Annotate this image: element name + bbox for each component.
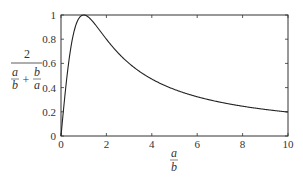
chart: 024681000.20.40.60.81 2 a b + b a a b bbox=[0, 0, 303, 178]
axis-labels: 2 a b + b a a b bbox=[11, 47, 178, 174]
plot-area: 024681000.20.40.60.81 bbox=[42, 9, 294, 150]
ylabel-plus: + bbox=[23, 73, 30, 87]
ylabel-b2: b bbox=[34, 65, 40, 79]
ylabel-numerator: 2 bbox=[24, 47, 30, 61]
x-tick-label: 6 bbox=[194, 138, 200, 150]
ylabel-a2: a bbox=[34, 78, 40, 92]
y-tick-label: 0 bbox=[51, 130, 57, 142]
x-tick-label: 2 bbox=[104, 138, 110, 150]
y-tick-label: 0.2 bbox=[42, 106, 56, 118]
x-tick-label: 0 bbox=[58, 138, 64, 150]
ylabel-a1: a bbox=[12, 65, 18, 79]
x-tick-label: 4 bbox=[149, 138, 155, 150]
x-tick-label: 8 bbox=[240, 138, 246, 150]
y-tick-label: 0.8 bbox=[42, 33, 56, 45]
y-tick-label: 0.4 bbox=[42, 82, 56, 94]
y-tick-label: 1 bbox=[51, 9, 57, 21]
data-line bbox=[61, 15, 288, 136]
x-tick-label: 10 bbox=[283, 138, 295, 150]
y-tick-label: 0.6 bbox=[42, 57, 56, 69]
axes-box bbox=[61, 15, 288, 136]
xlabel-denominator: b bbox=[171, 160, 177, 174]
xlabel-numerator: a bbox=[171, 146, 177, 160]
ylabel-b1: b bbox=[12, 78, 18, 92]
